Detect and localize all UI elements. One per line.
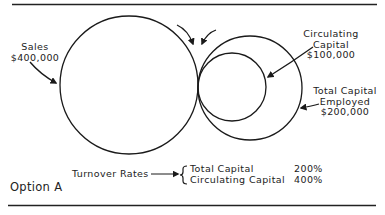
circulating-capital-label-line1: Circulating (296, 29, 366, 40)
circulating-capital-label: Circulating Capital $100,000 (296, 29, 366, 61)
turnover-row-name: Circulating Capital (190, 175, 294, 186)
rotation-arrow-left-icon (177, 25, 193, 44)
total-capital-value: $200,000 (307, 107, 383, 118)
sales-pointer-arrow-icon (30, 62, 56, 83)
sales-value: $400,000 (10, 53, 60, 64)
circulating-capital-value: $100,000 (296, 50, 366, 61)
circulating-capital-circle (198, 53, 266, 121)
sales-label: Sales $400,000 (10, 42, 60, 63)
rotation-arrow-right-icon (202, 30, 216, 44)
turnover-row-rate: 200% (294, 163, 323, 174)
total-capital-employed-label: Total Capital Employed $200,000 (307, 86, 383, 118)
sales-label-text: Sales (10, 42, 60, 53)
turnover-row-total-capital: Total Capital200% (190, 164, 323, 175)
option-label: Option A (10, 180, 62, 194)
curly-brace-icon (180, 166, 187, 184)
turnover-row-circulating-capital: Circulating Capital400% (190, 175, 323, 186)
sales-circle (60, 16, 198, 154)
total-capital-label-line1: Total Capital (307, 86, 383, 97)
total-capital-circle (198, 36, 302, 140)
turnover-row-name: Total Capital (190, 164, 294, 175)
turnover-rates-label: Turnover Rates (72, 169, 149, 180)
turnover-row-rate: 400% (294, 174, 323, 185)
